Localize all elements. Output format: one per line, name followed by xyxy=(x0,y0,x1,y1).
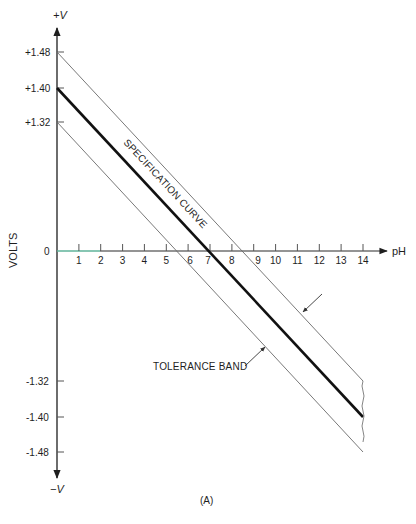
y-axis-title: VOLTS xyxy=(7,233,19,268)
y-axis-bottom-label: −V xyxy=(50,483,65,495)
y-tick-label: -1.32 xyxy=(26,376,49,387)
y-tick-label: +1.32 xyxy=(25,117,51,128)
x-tick-label: 11 xyxy=(292,255,303,266)
y-tick-label: -1.40 xyxy=(26,412,49,423)
x-tick-label: 6 xyxy=(187,255,193,266)
x-tick-label: 12 xyxy=(314,255,326,266)
x-tick-label: 3 xyxy=(120,255,126,266)
y-tick-label: 0 xyxy=(44,246,50,257)
x-tick-label: 9 xyxy=(255,255,261,266)
ph-voltage-chart: +V −V VOLTS +1.48 +1.40 +1.32 0 -1.32 -1… xyxy=(0,0,416,524)
x-tick-label: 8 xyxy=(229,255,235,266)
x-axis: pH 1 2 3 4 5 6 7 8 9 10 xyxy=(57,244,406,266)
x-tick-label: 10 xyxy=(270,255,282,266)
x-tick-label: 2 xyxy=(98,255,104,266)
y-axis: +V −V VOLTS +1.48 +1.40 +1.32 0 -1.32 -1… xyxy=(7,9,68,495)
y-tick-label: +1.48 xyxy=(25,47,51,58)
break-line xyxy=(362,381,364,442)
tolerance-band-lower-line xyxy=(57,122,363,452)
x-axis-title: pH xyxy=(392,245,406,257)
x-tick-label: 5 xyxy=(164,255,170,266)
y-tick-label: +1.40 xyxy=(25,83,51,94)
figure-caption: (A) xyxy=(200,495,213,506)
y-tick-label: -1.48 xyxy=(26,447,49,458)
tolerance-band-upper-line xyxy=(57,52,363,381)
x-tick-label: 1 xyxy=(76,255,82,266)
y-axis-top-label: +V xyxy=(53,9,68,21)
tolerance-band-label: TOLERANCE BAND xyxy=(153,361,247,372)
x-tick-label: 14 xyxy=(357,255,369,266)
tolerance-band-arrow xyxy=(245,347,265,366)
specification-curve-label: SPECIFICATION CURVE xyxy=(122,137,210,231)
x-tick-label: 7 xyxy=(205,255,211,266)
x-tick-label: 4 xyxy=(142,255,148,266)
upper-band-arrow xyxy=(303,294,322,312)
x-tick-label: 13 xyxy=(336,255,348,266)
